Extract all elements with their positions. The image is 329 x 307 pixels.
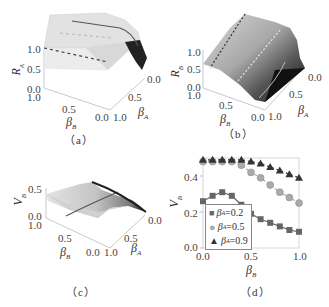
caption-d: （d） (240, 283, 271, 299)
legend-item-0.2: ■ βA=0.2 (209, 206, 248, 220)
z-tick-0.5: 0.5 (28, 184, 42, 195)
caption-c: （c） (66, 283, 96, 299)
z-axis-label: RA (10, 64, 25, 76)
y-axis-label: βB (66, 116, 76, 131)
z-tick-0.5: 0.5 (27, 64, 41, 75)
x-tick-1.0: 1.0 (113, 112, 127, 123)
y-tick-1.0: 1.0 (187, 90, 201, 101)
x-axis-label: βA (131, 242, 141, 257)
x-tick-0.5: 0.5 (128, 92, 142, 103)
y-tick-0.0: 0.0 (251, 112, 265, 123)
caption-b: （b） (223, 125, 254, 141)
z-tick-1.0: 1.0 (27, 44, 41, 55)
y-axis-label: VB (168, 196, 183, 208)
z-tick-0.5: 0.5 (187, 64, 201, 75)
panel-c: 0.5 0.0 1.0 0.5 0.0 1.0 0.5 0.0 VB βB βA… (0, 150, 165, 307)
y-tick-0.5: 0.5 (219, 100, 233, 111)
legend-item-0.5: ● βA=0.5 (209, 220, 248, 234)
panel-d: 0.4 0.2 0.0 0.0 0.5 1.0 VB βB （d） ■ βA=0… (165, 150, 329, 307)
y-axis-label: βB (60, 246, 70, 261)
x-tick-0.0: 0.0 (147, 74, 161, 85)
z-axis-label: VB (12, 194, 27, 206)
y-tick-0.0: 0.0 (95, 112, 109, 123)
legend: ■ βA=0.2 ● βA=0.5 ▲ βA=0.9 (205, 204, 252, 250)
z-axis-label: RB (169, 66, 184, 78)
circle-marker-icon: ● (209, 220, 216, 234)
legend-item-0.9: ▲ βA=0.9 (209, 234, 248, 248)
x-tick-0.5: 0.5 (244, 251, 258, 262)
caption-a: （a） (64, 131, 94, 147)
x-tick-0.0: 0.0 (308, 72, 322, 83)
x-axis-label: βB (246, 264, 256, 279)
square-marker-icon: ■ (209, 206, 214, 220)
z-tick-1.0: 1.0 (187, 47, 201, 58)
x-tick-1.0: 1.0 (293, 251, 307, 262)
panel-a: 1.0 0.5 0.0 1.0 0.5 0.0 1.0 0.5 0.0 RA β… (0, 0, 165, 150)
x-axis-label: βA (138, 106, 148, 121)
panel-b: 1.0 0.5 0.0 1.0 0.5 0.0 1.0 0.5 0.0 RB β… (165, 0, 329, 150)
y-tick-0.5: 0.5 (58, 233, 72, 244)
y-tick-0.2: 0.2 (184, 208, 198, 219)
x-axis-label: βA (298, 104, 308, 119)
x-tick-0.0: 0.0 (148, 215, 162, 226)
x-tick-1.0: 1.0 (268, 111, 282, 122)
y-tick-1.0: 1.0 (28, 220, 42, 231)
y-tick-0.0: 0.0 (86, 247, 100, 258)
y-tick-0.5: 0.5 (62, 104, 76, 115)
y-tick-1.0: 1.0 (27, 92, 41, 103)
triangle-marker-icon: ▲ (209, 234, 219, 248)
y-tick-0.4: 0.4 (184, 172, 198, 183)
x-tick-1.0: 1.0 (104, 247, 118, 258)
x-tick-0.0: 0.0 (196, 251, 210, 262)
x-tick-0.5: 0.5 (289, 89, 303, 100)
